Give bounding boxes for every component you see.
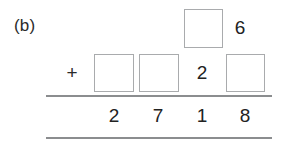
sum-digit: 8 bbox=[233, 106, 257, 126]
sum-rule-bottom bbox=[46, 137, 272, 139]
answer-box-addend-3[interactable] bbox=[226, 54, 265, 92]
sum-rule-top bbox=[46, 95, 272, 97]
answer-box-addend-2[interactable] bbox=[139, 54, 179, 92]
answer-box-addend-1[interactable] bbox=[94, 54, 134, 92]
sum-digit: 7 bbox=[146, 106, 170, 126]
plus-operator: + bbox=[63, 63, 81, 83]
part-label: (b) bbox=[14, 16, 35, 35]
sum-digit: 2 bbox=[102, 106, 126, 126]
answer-box-carry[interactable] bbox=[184, 9, 223, 48]
carry-row-digit: 6 bbox=[229, 18, 251, 38]
addend-row-digit: 2 bbox=[191, 63, 213, 83]
sum-digit: 1 bbox=[190, 106, 214, 126]
addition-worksheet-problem: (b) 6 + 2 2 7 1 8 bbox=[0, 0, 282, 151]
